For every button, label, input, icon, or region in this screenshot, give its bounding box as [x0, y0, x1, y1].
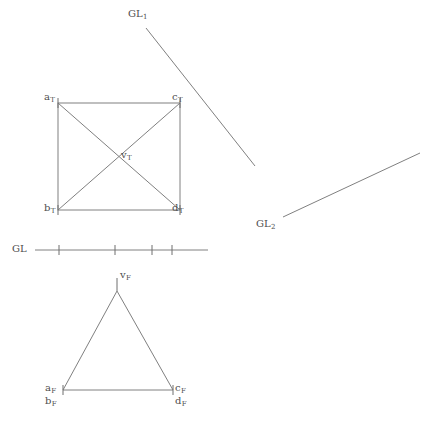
vertex-label-b-f: bF: [45, 396, 56, 406]
vertex-label-b-t: bT: [44, 203, 55, 213]
vertex-label-a-t: aT: [44, 92, 55, 102]
vertex-label-c-f: cF: [175, 383, 186, 393]
vertex-label-c-t: cT: [172, 92, 182, 102]
ground-line-main-label: GL: [12, 244, 27, 254]
triangle-side-right: [117, 291, 173, 390]
vertex-label-d-t: dT: [172, 203, 183, 213]
ground-line-1: [146, 28, 255, 166]
vertex-label-v-f: vF: [120, 270, 131, 280]
geometry-diagram: GL1 GL2 GL aT cT bT dT vT vF aF bF cF dF: [0, 0, 436, 432]
geometry-canvas: [0, 0, 436, 432]
ground-line-1-label: GL1: [128, 9, 147, 19]
vertex-label-d-f: dF: [175, 396, 186, 406]
triangle-side-left: [63, 291, 117, 390]
vertex-label-a-f: aF: [45, 383, 56, 393]
ground-line-2-label: GL2: [256, 219, 275, 229]
vertex-label-v-t: vT: [121, 150, 132, 160]
ground-line-2: [283, 153, 420, 217]
